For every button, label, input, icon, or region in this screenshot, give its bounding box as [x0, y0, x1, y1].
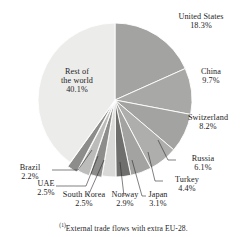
slice-value-south-korea: 2.5%	[57, 200, 111, 209]
slice-value-uae: 2.5%	[30, 189, 62, 198]
slice-label-south-korea: South Korea 2.5%	[57, 191, 111, 209]
slice-label-russia: Russia 6.1%	[178, 155, 228, 173]
slice-label-china: China 9.7%	[184, 68, 238, 86]
slice-label-switzerland: Switzerland 8.2%	[173, 114, 243, 132]
slice-value-rest-of-the-world: 40.1%	[46, 86, 108, 95]
footnote-marker: (1)	[59, 222, 66, 228]
slice-value-russia: 6.1%	[178, 164, 228, 173]
slice-value-china: 9.7%	[184, 77, 238, 86]
chart-footnote: (1)External trade flows with extra EU-28…	[0, 222, 247, 233]
slice-value-brazil: 2.2%	[10, 173, 50, 182]
slice-label-rest-of-the-world: Rest of the world 40.1%	[46, 68, 108, 95]
slice-value-switzerland: 8.2%	[173, 123, 243, 132]
footnote-text: External trade flows with extra EU-28.	[66, 224, 188, 233]
slice-label-uae: UAE 2.5%	[30, 180, 62, 198]
pie-chart-figure: Rest of the world 40.1% United States 18…	[0, 0, 247, 237]
pie-slice-group	[38, 23, 192, 177]
slice-label-brazil: Brazil 2.2%	[10, 164, 50, 182]
slice-value-united-states: 18.3%	[162, 22, 240, 31]
slice-label-united-states: United States 18.3%	[162, 13, 240, 31]
